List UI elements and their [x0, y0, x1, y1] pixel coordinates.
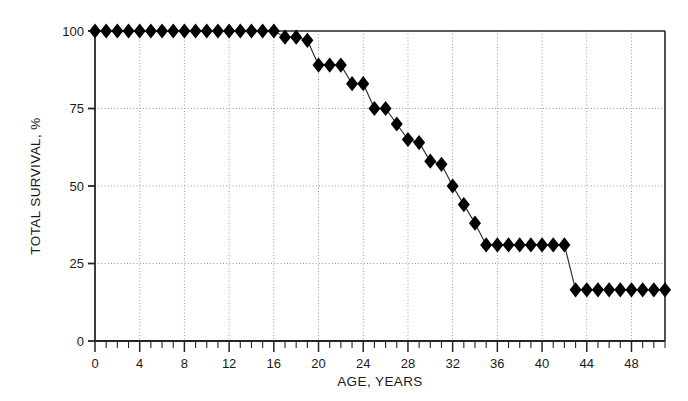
data-point-marker: [234, 23, 246, 38]
data-point-marker: [447, 178, 459, 193]
data-point-marker: [536, 237, 548, 252]
data-point-marker: [637, 282, 649, 297]
data-point-marker: [435, 157, 447, 172]
data-markers: [89, 23, 671, 297]
x-tick-label: 24: [356, 356, 370, 371]
data-point-marker: [413, 135, 425, 150]
data-point-marker: [324, 58, 336, 73]
data-point-marker: [659, 282, 671, 297]
data-point-marker: [167, 23, 179, 38]
data-point-marker: [201, 23, 213, 38]
survival-chart: 025507510004812162024283236404448AGE, YE…: [0, 0, 688, 401]
x-tick-label: 48: [624, 356, 638, 371]
data-point-marker: [547, 237, 559, 252]
data-point-marker: [156, 23, 168, 38]
y-axis-ticks: 0255075100: [62, 24, 95, 349]
x-tick-label: 32: [445, 356, 459, 371]
data-point-marker: [570, 282, 582, 297]
y-tick-label: 0: [77, 334, 84, 349]
x-axis-title: AGE, YEARS: [337, 374, 423, 389]
x-tick-label: 20: [311, 356, 325, 371]
x-tick-label: 40: [535, 356, 549, 371]
y-axis-title: TOTAL SURVIVAL, %: [28, 117, 43, 254]
data-point-marker: [458, 197, 470, 212]
data-point-marker: [223, 23, 235, 38]
data-point-marker: [212, 23, 224, 38]
data-point-marker: [178, 23, 190, 38]
data-point-marker: [279, 30, 291, 45]
y-tick-label: 75: [70, 101, 84, 116]
data-point-marker: [245, 23, 257, 38]
data-point-marker: [525, 237, 537, 252]
data-point-marker: [111, 23, 123, 38]
y-tick-label: 100: [62, 24, 84, 39]
data-point-marker: [592, 282, 604, 297]
data-point-marker: [301, 33, 313, 48]
x-tick-label: 0: [91, 356, 98, 371]
data-point-marker: [346, 76, 358, 91]
data-point-marker: [491, 237, 503, 252]
data-point-marker: [368, 101, 380, 116]
data-point-marker: [134, 23, 146, 38]
data-point-marker: [268, 23, 280, 38]
data-point-marker: [357, 76, 369, 91]
data-point-marker: [100, 23, 112, 38]
gridlines: [95, 31, 665, 341]
x-tick-label: 16: [267, 356, 281, 371]
data-point-marker: [648, 282, 660, 297]
data-point-marker: [603, 282, 615, 297]
data-point-marker: [469, 216, 481, 231]
x-tick-label: 12: [222, 356, 236, 371]
x-axis-ticks: 04812162024283236404448: [91, 341, 665, 371]
data-point-marker: [123, 23, 135, 38]
data-point-marker: [190, 23, 202, 38]
y-tick-label: 25: [70, 256, 84, 271]
x-tick-label: 8: [181, 356, 188, 371]
x-tick-label: 44: [580, 356, 594, 371]
data-point-marker: [335, 58, 347, 73]
data-point-marker: [424, 154, 436, 169]
x-tick-label: 36: [490, 356, 504, 371]
data-point-marker: [558, 237, 570, 252]
data-point-marker: [480, 237, 492, 252]
data-point-marker: [581, 282, 593, 297]
data-point-marker: [145, 23, 157, 38]
data-point-marker: [257, 23, 269, 38]
survival-curve-figure: 025507510004812162024283236404448AGE, YE…: [0, 0, 688, 401]
data-point-marker: [503, 237, 515, 252]
data-point-marker: [514, 237, 526, 252]
data-point-marker: [625, 282, 637, 297]
x-tick-label: 28: [401, 356, 415, 371]
x-tick-label: 4: [136, 356, 143, 371]
data-point-marker: [89, 23, 101, 38]
survival-line: [95, 31, 665, 290]
data-point-marker: [290, 30, 302, 45]
data-point-marker: [614, 282, 626, 297]
y-tick-label: 50: [70, 179, 84, 194]
data-point-marker: [313, 58, 325, 73]
